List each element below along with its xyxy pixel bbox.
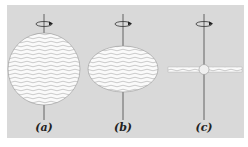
label-c: (c) [189,121,219,134]
rotation-arrow-icon [36,22,53,27]
panel-c [168,14,242,120]
panel-b [88,14,158,120]
rotation-arrow-icon [115,22,132,27]
rotation-arrow-icon [196,22,213,27]
panel-a [8,14,80,120]
label-a: (a) [29,121,59,134]
label-b: (b) [108,121,138,134]
